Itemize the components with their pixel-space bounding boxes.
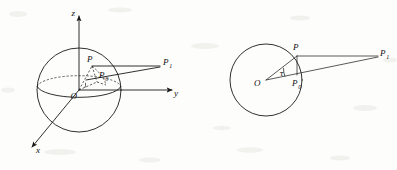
left-point-p0-subscript: 0: [105, 76, 108, 82]
left-point-p0-label: P 0: [98, 70, 108, 82]
left-point-p1-subscript: 1: [169, 63, 172, 69]
left-angle-tick: [85, 83, 86, 87]
left-point-p-label: P: [86, 54, 93, 64]
right-point-p0-subscript: 0: [298, 84, 301, 90]
left-origin-label: O: [71, 91, 78, 101]
left-segment-o-to-p0: [79, 82, 97, 90]
right-point-p0-base: P: [291, 78, 298, 88]
left-point-p1-label: P 1: [162, 57, 172, 69]
right-point-p1-base: P: [379, 48, 386, 58]
right-point-p1-label: P 1: [379, 48, 389, 60]
left-point-p1-base: P: [162, 57, 169, 67]
left-line-o-to-p1: [86, 67, 160, 80]
right-point-p-label: P: [292, 42, 299, 52]
right-point-p0-label: P 0: [291, 78, 301, 90]
right-point-p1-subscript: 1: [386, 54, 389, 60]
right-panel-circle-diagram: τ P O P 0 P 1: [230, 42, 389, 116]
left-projection-base: [97, 82, 106, 85]
z-axis-label: z: [71, 8, 76, 18]
left-point-p0-base: P: [98, 70, 105, 80]
y-axis-label: y: [173, 88, 178, 98]
left-segment-p-to-p0: [92, 66, 97, 82]
right-origin-label: O: [254, 78, 261, 88]
paper-texture: [1, 7, 397, 162]
x-axis-label: x: [35, 145, 40, 155]
left-panel-sphere-diagram: z y x P: [32, 8, 178, 155]
figure-canvas: z y x P: [0, 0, 397, 170]
geometry-figure: z y x P: [0, 0, 397, 170]
right-angle-arc: [283, 68, 284, 76]
